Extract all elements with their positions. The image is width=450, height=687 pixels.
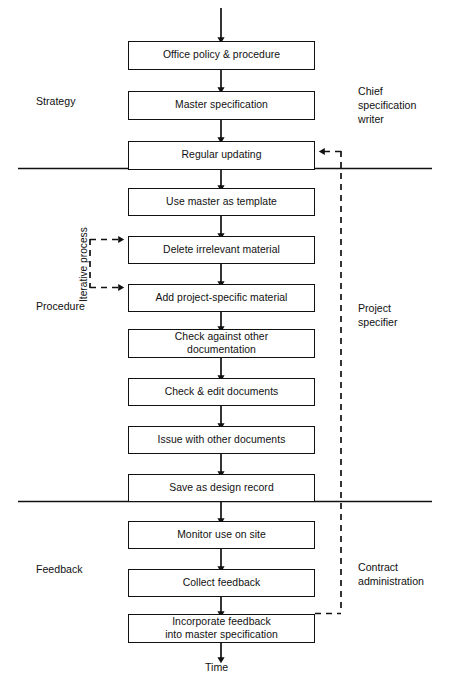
process-box-label: Collect feedback — [132, 577, 311, 590]
process-box-save-design-record[interactable]: Save as design record — [128, 474, 315, 502]
role-label-chief-specification-writer: Chiefspecificationwriter — [358, 84, 416, 126]
role-label-project-specifier: Projectspecifier — [358, 301, 397, 329]
process-box-check-against-other[interactable]: Check against otherdocumentation — [128, 329, 315, 358]
phase-label-strategy: Strategy — [36, 95, 75, 108]
process-box-label: Office policy & procedure — [132, 49, 311, 62]
phase-label-feedback: Feedback — [36, 563, 83, 576]
process-box-label: Check against otherdocumentation — [132, 331, 311, 356]
process-box-label: Issue with other documents — [132, 434, 311, 447]
process-box-collect-feedback[interactable]: Collect feedback — [128, 569, 315, 597]
process-box-issue-with-other[interactable]: Issue with other documents — [128, 426, 315, 454]
process-box-use-master-template[interactable]: Use master as template — [128, 188, 315, 216]
flowchart-diagram: Office policy & procedure Master specifi… — [0, 0, 450, 687]
process-box-label: Delete irrelevant material — [132, 244, 311, 257]
process-box-label: Use master as template — [132, 196, 311, 209]
process-box-delete-irrelevant[interactable]: Delete irrelevant material — [128, 236, 315, 264]
process-box-label: Monitor use on site — [132, 529, 311, 542]
process-box-check-edit-documents[interactable]: Check & edit documents — [128, 378, 315, 406]
process-box-office-policy[interactable]: Office policy & procedure — [128, 41, 315, 70]
process-box-label: Master specification — [132, 99, 311, 112]
process-box-label: Incorporate feedbackinto master specific… — [132, 616, 311, 641]
process-box-master-specification[interactable]: Master specification — [128, 91, 315, 120]
process-box-incorporate-feedback[interactable]: Incorporate feedbackinto master specific… — [128, 614, 315, 643]
process-box-label: Add project-specific material — [132, 292, 311, 305]
process-box-add-project-specific[interactable]: Add project-specific material — [128, 284, 315, 312]
role-label-contract-administration: Contractadministration — [358, 560, 424, 588]
time-axis-label: Time — [205, 661, 228, 673]
process-box-label: Save as design record — [132, 482, 311, 495]
process-box-regular-updating[interactable]: Regular updating — [128, 141, 315, 170]
process-box-label: Regular updating — [132, 149, 311, 162]
process-box-label: Check & edit documents — [132, 386, 311, 399]
iterative-process-label: Iterative process — [78, 227, 89, 302]
process-box-monitor-use-on-site[interactable]: Monitor use on site — [128, 521, 315, 549]
